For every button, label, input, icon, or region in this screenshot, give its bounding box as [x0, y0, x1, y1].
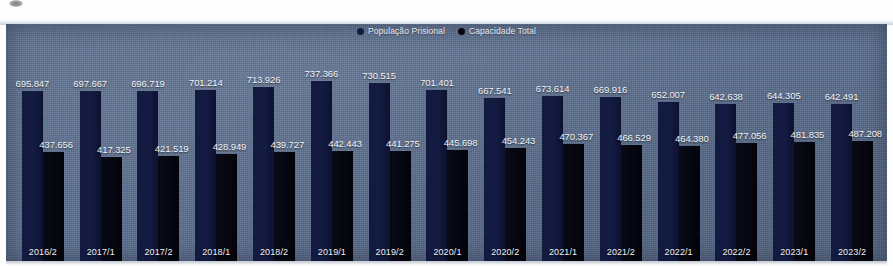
- bar-group: 696.719421.519: [130, 42, 188, 261]
- bar-group: 667.541454.243: [476, 42, 534, 261]
- legend-label: População Prisional: [368, 26, 445, 36]
- plot-area: 695.847437.656697.667417.325696.719421.5…: [14, 42, 881, 261]
- bar-value-label: 445.698: [444, 137, 478, 148]
- x-axis-labels: 2016/22017/12017/22018/12018/22019/12019…: [14, 247, 881, 257]
- chart-legend: População PrisionalCapacidade Total: [6, 26, 887, 36]
- bar-value-label: 417.325: [97, 144, 131, 155]
- bar-populacao-prisional[interactable]: 667.541: [484, 98, 505, 261]
- bar-populacao-prisional[interactable]: 737.366: [311, 81, 332, 261]
- bar-value-label: 642.491: [825, 91, 859, 102]
- bar-value-label: 667.541: [478, 85, 512, 96]
- x-axis-tick-label: 2023/1: [765, 247, 823, 257]
- bar-pair: 737.366442.443: [303, 42, 361, 261]
- bar-populacao-prisional[interactable]: 652.007: [658, 102, 679, 261]
- legend-item-1[interactable]: Capacidade Total: [458, 26, 536, 36]
- x-axis-tick-label: 2017/1: [72, 247, 130, 257]
- bar-capacidade-total[interactable]: 441.275: [390, 151, 411, 261]
- bar-group: 730.515441.275: [361, 42, 419, 261]
- bar-value-label: 441.275: [386, 138, 420, 149]
- x-axis-tick-label: 2021/1: [534, 247, 592, 257]
- bar-group: 701.401445.698: [419, 42, 477, 261]
- bar-value-label: 428.949: [213, 141, 247, 152]
- bar-populacao-prisional[interactable]: 701.401: [426, 90, 447, 261]
- bar-value-label: 713.926: [247, 74, 281, 85]
- bar-populacao-prisional[interactable]: 673.614: [542, 96, 563, 261]
- bar-populacao-prisional[interactable]: 730.515: [369, 83, 390, 261]
- bar-group: 701.214428.949: [187, 42, 245, 261]
- bar-value-label: 437.656: [39, 139, 73, 150]
- bar-populacao-prisional[interactable]: 644.305: [773, 103, 794, 261]
- bar-value-label: 669.916: [594, 84, 628, 95]
- bar-value-label: 464.380: [675, 133, 709, 144]
- legend-label: Capacidade Total: [469, 26, 536, 36]
- bar-value-label: 697.667: [73, 78, 107, 89]
- x-axis-tick-label: 2020/1: [419, 247, 477, 257]
- bar-capacidade-total[interactable]: 439.727: [274, 152, 295, 261]
- x-axis-tick-label: 2022/2: [708, 247, 766, 257]
- bar-populacao-prisional[interactable]: 697.667: [80, 91, 101, 261]
- bar-capacidade-total[interactable]: 442.443: [332, 151, 353, 261]
- bar-pair: 652.007464.380: [650, 42, 708, 261]
- bar-capacidade-total[interactable]: 445.698: [447, 150, 468, 261]
- legend-item-0[interactable]: População Prisional: [357, 26, 445, 36]
- bar-group: 644.305481.835: [765, 42, 823, 261]
- bar-pair: 696.719421.519: [130, 42, 188, 261]
- x-axis-tick-label: 2022/1: [650, 247, 708, 257]
- bar-pair: 642.638477.056: [708, 42, 766, 261]
- bar-pair: 713.926439.727: [245, 42, 303, 261]
- legend-swatch-icon: [458, 28, 465, 35]
- bar-capacidade-total[interactable]: 477.056: [736, 143, 757, 261]
- bar-populacao-prisional[interactable]: 713.926: [253, 87, 274, 261]
- scan-artifact-icon: [9, 0, 23, 7]
- x-axis-tick-label: 2019/1: [303, 247, 361, 257]
- bar-value-label: 701.214: [189, 77, 223, 88]
- bar-value-label: 730.515: [362, 70, 396, 81]
- bar-capacidade-total[interactable]: 437.656: [43, 152, 64, 261]
- bar-populacao-prisional[interactable]: 642.638: [715, 104, 736, 261]
- bar-pair: 695.847437.656: [14, 42, 72, 261]
- bar-capacidade-total[interactable]: 487.208: [852, 141, 873, 262]
- bar-populacao-prisional[interactable]: 695.847: [22, 91, 43, 261]
- bar-group: 673.614470.367: [534, 42, 592, 261]
- bar-value-label: 470.367: [559, 131, 593, 142]
- bar-capacidade-total[interactable]: 428.949: [216, 154, 237, 261]
- bar-capacidade-total[interactable]: 421.519: [158, 156, 179, 261]
- bar-value-label: 454.243: [502, 135, 536, 146]
- panel-bottom-shadow: [6, 261, 887, 265]
- bar-capacidade-total[interactable]: 454.243: [505, 148, 526, 261]
- bar-value-label: 642.638: [709, 91, 743, 102]
- bar-pair: 730.515441.275: [361, 42, 419, 261]
- bar-pair: 697.667417.325: [72, 42, 130, 261]
- bar-capacidade-total[interactable]: 466.529: [621, 145, 642, 261]
- bar-pair: 644.305481.835: [765, 42, 823, 261]
- bar-capacidade-total[interactable]: 481.835: [794, 142, 815, 261]
- bar-populacao-prisional[interactable]: 669.916: [600, 97, 621, 261]
- bar-chart-panel: População PrisionalCapacidade Total 695.…: [6, 24, 887, 261]
- bar-value-label: 442.443: [328, 138, 362, 149]
- bar-capacidade-total[interactable]: 464.380: [679, 146, 700, 261]
- bar-group: 669.916466.529: [592, 42, 650, 261]
- bar-value-label: 487.208: [848, 128, 882, 139]
- bar-group: 642.491487.208: [823, 42, 881, 261]
- bar-populacao-prisional[interactable]: 696.719: [137, 91, 158, 261]
- bar-pair: 701.401445.698: [419, 42, 477, 261]
- bar-value-label: 481.835: [791, 129, 825, 140]
- x-axis-tick-label: 2020/2: [476, 247, 534, 257]
- bar-group: 737.366442.443: [303, 42, 361, 261]
- bar-capacidade-total[interactable]: 470.367: [563, 144, 584, 261]
- bar-value-label: 421.519: [155, 143, 189, 154]
- bar-value-label: 466.529: [617, 132, 651, 143]
- bar-capacidade-total[interactable]: 417.325: [101, 157, 122, 261]
- bar-group: 697.667417.325: [72, 42, 130, 261]
- x-axis-tick-label: 2017/2: [130, 247, 188, 257]
- bar-pair: 669.916466.529: [592, 42, 650, 261]
- bar-value-label: 644.305: [767, 90, 801, 101]
- bar-group: 642.638477.056: [708, 42, 766, 261]
- x-axis-tick-label: 2023/2: [823, 247, 881, 257]
- bar-value-label: 695.847: [16, 78, 50, 89]
- bar-populacao-prisional[interactable]: 701.214: [195, 90, 216, 261]
- x-axis-tick-label: 2018/1: [187, 247, 245, 257]
- bar-value-label: 696.719: [131, 78, 165, 89]
- bar-pair: 667.541454.243: [476, 42, 534, 261]
- bar-pair: 642.491487.208: [823, 42, 881, 261]
